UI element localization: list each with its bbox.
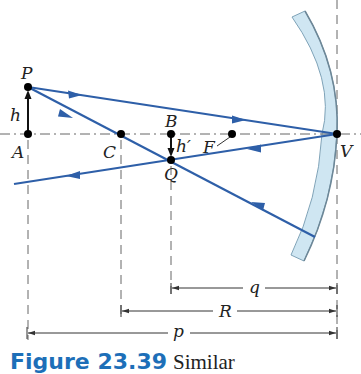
figure-number: Figure 23.39: [10, 349, 167, 374]
point-F: [228, 130, 236, 138]
arrow-icon: [251, 202, 265, 211]
point-C: [117, 130, 125, 138]
figure-caption-text: Similar: [173, 350, 235, 374]
focal-leader-line: [217, 137, 230, 146]
arrow-icon: [232, 116, 246, 124]
label-P: P: [20, 63, 33, 83]
point-Q: [167, 156, 175, 164]
arrow-icon: [247, 145, 261, 153]
dimension-label-p: p: [173, 321, 184, 341]
label-h-prime: h′: [176, 136, 191, 156]
point-B: [167, 130, 175, 138]
reference-lines: [28, 0, 337, 340]
label-F: F: [202, 137, 216, 157]
label-A: A: [10, 142, 24, 162]
label-Q: Q: [164, 164, 178, 184]
arrow-down-icon: [168, 148, 175, 157]
point-P: [24, 83, 32, 91]
light-rays: [14, 87, 337, 237]
arrow-up-icon: [25, 90, 32, 99]
label-C: C: [103, 142, 116, 162]
figure-caption: Figure 23.39Similar: [10, 350, 235, 374]
dimension-label-q: q: [249, 277, 260, 297]
arrow-icon: [68, 91, 82, 99]
label-h: h: [10, 105, 21, 125]
point-V: [333, 130, 341, 138]
dimension-label-R: R: [218, 301, 232, 321]
point-A: [24, 130, 32, 138]
label-V: V: [340, 141, 354, 161]
label-B: B: [164, 111, 178, 131]
